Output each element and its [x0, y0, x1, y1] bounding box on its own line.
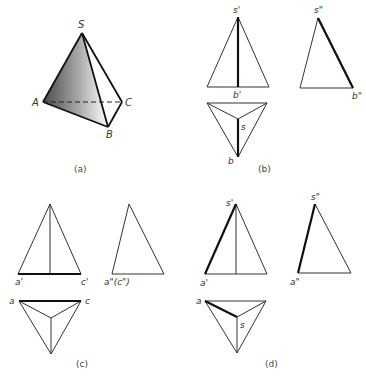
label-S: S	[78, 19, 85, 30]
label-C: C	[125, 97, 132, 108]
caption-d: (d)	[265, 359, 278, 369]
highlight-sa-front	[205, 204, 236, 274]
label-a-prime-c: a'	[15, 277, 23, 287]
label-c-top: c	[85, 296, 90, 306]
shaded-face-sab	[43, 33, 108, 127]
label-b-dprime: b"	[352, 91, 362, 101]
top-view-d	[205, 301, 266, 353]
caption-a: (a)	[74, 164, 87, 174]
label-s-top-d: s	[240, 320, 245, 330]
top-view-c	[19, 301, 81, 354]
label-s-top-b: s	[241, 122, 246, 132]
caption-c: (c)	[76, 359, 88, 369]
label-b-prime: b'	[233, 90, 241, 100]
side-view-b	[300, 18, 353, 88]
projection-diagram: S A B C (a) s' b' s" b" s b (b) a' c' a	[0, 0, 366, 380]
label-a-dprime: a"	[290, 277, 300, 287]
label-a-c-dprime: a"(c")	[104, 277, 130, 287]
label-a-top-c: a	[9, 296, 15, 306]
panel-a-pyramid: S A B C (a)	[31, 19, 132, 174]
panel-b-edge-sb: s' b' s" b" s b (b)	[207, 5, 362, 174]
label-b-top: b	[228, 156, 234, 166]
label-B: B	[106, 129, 113, 140]
side-view-c	[112, 204, 164, 274]
label-a-prime-d: a'	[200, 278, 208, 288]
panel-c-edge-ac: a' c' a"(c") a c (c)	[9, 204, 164, 369]
highlight-sb-side	[318, 18, 353, 88]
label-a-top-d: a	[196, 296, 202, 306]
edge-bc	[108, 102, 122, 127]
label-A: A	[31, 97, 39, 108]
highlight-sa-side	[298, 204, 315, 273]
label-s-prime-d: s'	[226, 198, 233, 208]
label-c-prime: c'	[81, 277, 88, 287]
panel-d-edge-sa: s' a' s" a" a s (d)	[196, 192, 351, 369]
label-s-dprime-b: s"	[314, 5, 323, 15]
label-s-dprime-d: s"	[311, 192, 320, 202]
caption-b: (b)	[258, 164, 271, 174]
label-s-prime-b: s'	[233, 5, 240, 15]
